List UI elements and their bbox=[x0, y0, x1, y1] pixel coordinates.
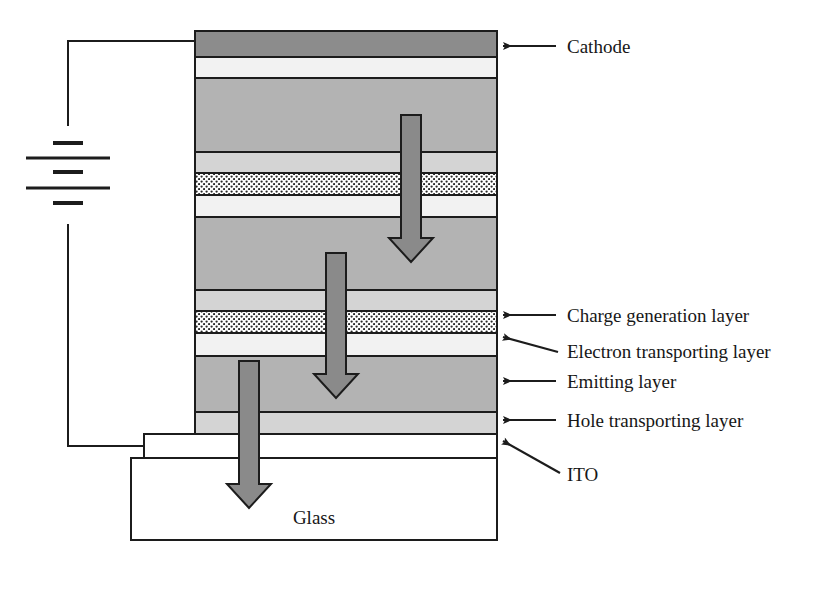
circuit-wiring bbox=[68, 41, 195, 446]
wire-ito-to-source bbox=[68, 224, 144, 446]
layer-electron-transport-2 bbox=[195, 195, 497, 217]
layer-ito bbox=[144, 434, 497, 458]
callout-label-cathode: Cathode bbox=[567, 36, 630, 57]
callout-labels: Cathode Charge generation layer Electron… bbox=[567, 36, 771, 485]
callout-label-hole-transport: Hole transporting layer bbox=[567, 410, 744, 431]
callout-label-ito: ITO bbox=[567, 464, 598, 485]
leader-ito bbox=[503, 441, 560, 473]
oled-structure-svg: Glass bbox=[0, 0, 840, 595]
oled-diagram: Glass bbox=[0, 0, 840, 595]
callout-label-emitting: Emitting layer bbox=[567, 371, 677, 392]
glass-substrate: Glass bbox=[131, 458, 497, 540]
layer-emitting-3 bbox=[195, 78, 497, 152]
wire-cathode-to-source bbox=[68, 41, 195, 126]
layer-hole-transport-3 bbox=[195, 152, 497, 173]
glass-label: Glass bbox=[293, 507, 335, 528]
callout-label-electron-transport: Electron transporting layer bbox=[567, 341, 771, 362]
ito-body bbox=[144, 434, 497, 458]
layer-cathode bbox=[195, 31, 497, 57]
layer-electron-transport-3 bbox=[195, 57, 497, 78]
layer-charge-generation-2 bbox=[195, 173, 497, 195]
callout-leaders bbox=[503, 46, 560, 473]
power-source-battery bbox=[26, 143, 110, 203]
callout-label-charge-generation: Charge generation layer bbox=[567, 305, 750, 326]
leader-electron-transport bbox=[503, 337, 558, 352]
